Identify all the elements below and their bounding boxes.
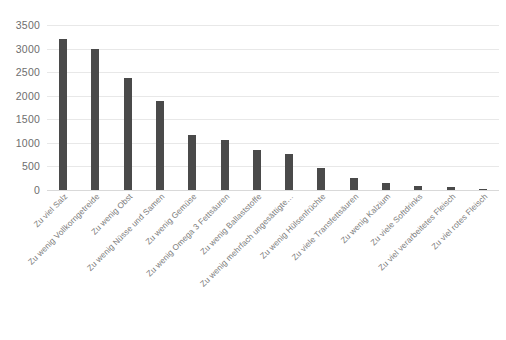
y-axis-tick-label: 3500: [16, 19, 40, 31]
bar: [253, 150, 261, 190]
bar: [91, 49, 99, 190]
bar: [317, 168, 325, 190]
bar: [350, 178, 358, 190]
y-axis-tick-label: 2500: [16, 66, 40, 78]
bar: [382, 183, 390, 190]
bar: [156, 101, 164, 190]
bar: [479, 189, 487, 191]
bar-chart: 0500100015002000250030003500 Zu viel Sal…: [0, 0, 506, 340]
bar: [59, 39, 67, 190]
caption-strip: [0, 334, 506, 340]
gridline: [47, 190, 499, 191]
x-axis: Zu viel SalzZu wenig VollkorngetreideZu …: [47, 192, 499, 332]
x-axis-tick-label-text: Zu wenig Hülsenfrüchte: [259, 192, 328, 261]
bar: [221, 140, 229, 190]
y-axis-tick-label: 500: [22, 160, 40, 172]
bar: [414, 186, 422, 190]
bar: [188, 135, 196, 190]
y-axis-tick-label: 2000: [16, 90, 40, 102]
y-axis: 0500100015002000250030003500: [0, 0, 44, 200]
bar: [124, 78, 132, 190]
bar: [285, 154, 293, 190]
x-axis-tick-label-text: Zu wenig Ballaststoffe: [199, 192, 263, 256]
x-axis-tick-label-text: Zu viel rotes Fleisch: [430, 192, 489, 251]
y-axis-tick-label: 1500: [16, 113, 40, 125]
bar: [447, 187, 455, 190]
bar-series: [47, 25, 499, 190]
y-axis-tick-label: 1000: [16, 137, 40, 149]
y-axis-tick-label: 0: [34, 184, 40, 196]
y-axis-tick-label: 3000: [16, 43, 40, 55]
